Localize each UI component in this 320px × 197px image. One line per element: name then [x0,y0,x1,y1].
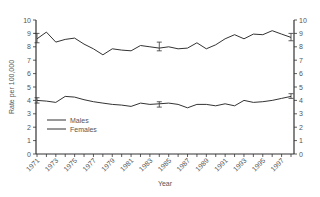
right-y-tick-label: 2 [299,124,303,131]
axes: 0123456789100123456789101971197319751977… [23,17,307,173]
line-chart: 0123456789100123456789101971197319751977… [0,0,320,197]
y-tick-label: 1 [27,137,31,144]
right-y-tick-label: 7 [299,57,303,64]
x-tick-label: 1973 [44,157,60,173]
y-tick-label: 10 [23,17,31,24]
y-axis-title: Rate per 100,000 [8,60,16,114]
y-tick-label: 2 [27,124,31,131]
right-y-tick-label: 9 [299,30,303,37]
y-tick-label: 9 [27,30,31,37]
x-tick-label: 1971 [25,157,41,173]
y-tick-label: 5 [27,84,31,91]
legend: MalesFemales [47,117,97,133]
x-tick-label: 1997 [269,157,285,173]
x-tick-label: 1991 [213,157,229,173]
right-y-tick-label: 4 [299,97,303,104]
y-tick-label: 3 [27,110,31,117]
x-tick-label: 1983 [138,157,154,173]
x-tick-label: 1977 [81,157,97,173]
right-y-tick-label: 0 [299,151,303,158]
series-lines [35,31,294,108]
right-y-tick-label: 3 [299,110,303,117]
x-tick-label: 1979 [100,157,116,173]
right-y-tick-label: 1 [299,137,303,144]
x-tick-label: 1989 [194,157,210,173]
y-tick-label: 4 [27,97,31,104]
y-tick-label: 7 [27,57,31,64]
series-line-females [37,96,291,107]
legend-label: Females [70,126,97,133]
x-tick-label: 1995 [251,157,267,173]
x-tick-label: 1975 [62,157,78,173]
right-y-tick-label: 8 [299,43,303,50]
right-y-tick-label: 5 [299,84,303,91]
legend-label: Males [70,117,89,124]
y-tick-label: 8 [27,43,31,50]
x-axis-title: Year [158,180,173,187]
y-tick-label: 0 [27,151,31,158]
right-y-tick-label: 6 [299,70,303,77]
x-tick-label: 1981 [119,157,135,173]
x-tick-label: 1987 [175,157,191,173]
series-line-males [37,31,291,55]
y-tick-label: 6 [27,70,31,77]
right-y-tick-label: 10 [299,17,307,24]
x-tick-label: 1993 [232,157,248,173]
x-tick-label: 1985 [156,157,172,173]
